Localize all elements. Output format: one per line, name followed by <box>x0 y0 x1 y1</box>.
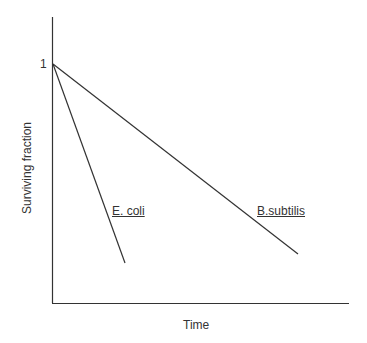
bsubtilis-label: B.subtilis <box>257 204 305 218</box>
y-axis-label: Surviving fraction <box>20 122 34 214</box>
y-tick-1: 1 <box>40 57 47 71</box>
ecoli-label: E. coli <box>112 204 145 218</box>
series-ecoli-line <box>53 64 125 263</box>
chart-plot <box>0 0 367 343</box>
series-bsubtilis-line <box>53 64 298 254</box>
x-axis-label: Time <box>183 318 209 332</box>
